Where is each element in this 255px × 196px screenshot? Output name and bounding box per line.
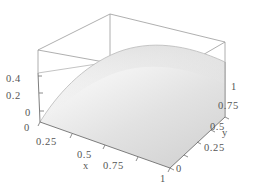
- y-tick-label-1: 0.25: [204, 143, 225, 154]
- x-tick-label-4: 1: [160, 174, 166, 185]
- z-tick-label-1: 0.2: [6, 91, 21, 102]
- y-axis-label: y: [222, 128, 228, 139]
- surface-mesh: [40, 45, 225, 168]
- y-tick-label-0: 0: [176, 164, 182, 175]
- x-tick-label-1: 0.25: [36, 137, 57, 148]
- surface-plot-figure: 0.4 0.2 0 0 0.25 0.5 0.75 1 x 1 0.75 0.5…: [0, 0, 255, 196]
- x-tick-label-0: 0: [24, 123, 30, 134]
- x-axis-label: x: [83, 161, 89, 172]
- y-tick-label-4: 1: [231, 82, 237, 93]
- z-tick-label-0: 0.4: [6, 74, 21, 85]
- plot-canvas: [0, 0, 255, 196]
- x-tick-label-2: 0.5: [77, 150, 92, 161]
- y-tick-label-3: 0.75: [218, 101, 239, 112]
- z-axis-line: [38, 73, 40, 122]
- z-tick-label-2: 0: [25, 108, 31, 119]
- x-tick-label-3: 0.75: [103, 161, 124, 172]
